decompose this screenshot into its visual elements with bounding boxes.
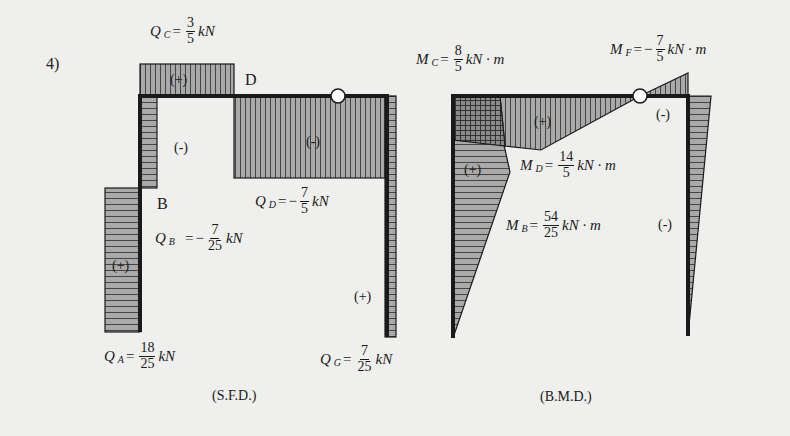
bmd-sign-near-hinge: (-) bbox=[656, 108, 670, 122]
equals: = bbox=[530, 218, 538, 233]
numerator: 14 bbox=[558, 150, 574, 166]
sfd-sign-right-column: (+) bbox=[354, 290, 371, 304]
symbol: Q bbox=[155, 231, 166, 246]
bmd-label-mc: MC = 85 kN · m bbox=[416, 44, 504, 74]
symbol: M bbox=[610, 42, 623, 57]
equals: = bbox=[185, 231, 193, 246]
fraction: 1825 bbox=[139, 341, 155, 371]
sfd-column-negative-region bbox=[141, 96, 157, 188]
bmd-corner-overlap-region bbox=[453, 96, 505, 146]
sfd-caption: (S.F.D.) bbox=[212, 389, 256, 403]
numerator: 7 bbox=[656, 34, 665, 50]
unit: kN · m bbox=[577, 158, 616, 173]
symbol: Q bbox=[255, 194, 266, 209]
subscript: G bbox=[334, 358, 341, 368]
subscript: D bbox=[536, 164, 543, 174]
unit: kN · m bbox=[668, 42, 707, 57]
denominator: 5 bbox=[186, 32, 195, 47]
subscript: C bbox=[432, 58, 439, 68]
equals: = bbox=[173, 24, 181, 39]
problem-number: 4) bbox=[46, 56, 59, 72]
equals: = bbox=[126, 349, 134, 364]
unit: kN bbox=[376, 352, 393, 367]
bmd-hinge bbox=[633, 89, 647, 103]
sfd-label-qb: QB = − 725 kN bbox=[155, 223, 243, 253]
symbol: M bbox=[506, 218, 519, 233]
sfd-hinge bbox=[331, 89, 345, 103]
symbol: Q bbox=[150, 24, 161, 39]
unit: kN bbox=[158, 349, 175, 364]
sfd-sign-column-upper: (-) bbox=[174, 141, 188, 155]
subscript: B bbox=[169, 237, 175, 247]
subscript: F bbox=[626, 48, 632, 58]
unit: kN bbox=[226, 231, 243, 246]
sfd-label-qc: QC = 35 kN bbox=[150, 16, 215, 46]
denominator: 25 bbox=[139, 357, 155, 372]
sign: − bbox=[644, 42, 652, 57]
sfd-sign-top-box: (+) bbox=[170, 73, 187, 87]
fraction: 145 bbox=[558, 150, 574, 180]
bmd-sign-right-column: (-) bbox=[658, 218, 672, 232]
sfd-point-label-b: B bbox=[157, 196, 168, 212]
numerator: 54 bbox=[543, 210, 559, 226]
denominator: 5 bbox=[300, 202, 309, 217]
numerator: 7 bbox=[360, 344, 369, 360]
numerator: 18 bbox=[139, 341, 155, 357]
unit: kN bbox=[312, 194, 329, 209]
equals: = bbox=[440, 52, 448, 67]
equals: = bbox=[545, 158, 553, 173]
equals: = bbox=[278, 194, 286, 209]
subscript: A bbox=[118, 355, 124, 365]
fraction: 5425 bbox=[543, 210, 559, 240]
bmd-beam-positive-region bbox=[500, 96, 640, 150]
bmd-label-md: MD = 145 kN · m bbox=[520, 150, 616, 180]
equals: = bbox=[343, 352, 351, 367]
bmd-left-column-positive-region bbox=[453, 140, 510, 338]
sfd-label-qg: QG = 725 kN bbox=[320, 344, 392, 374]
denominator: 25 bbox=[207, 239, 223, 254]
fraction: 75 bbox=[300, 186, 309, 216]
sfd-label-qd: QD = − 75 kN bbox=[255, 186, 329, 216]
numerator: 3 bbox=[186, 16, 195, 32]
numerator: 7 bbox=[210, 223, 219, 239]
bmd-caption: (B.M.D.) bbox=[540, 390, 592, 404]
equals: = bbox=[634, 42, 642, 57]
subscript: C bbox=[164, 30, 171, 40]
sfd-point-label-d: D bbox=[245, 72, 257, 88]
denominator: 25 bbox=[543, 226, 559, 241]
numerator: 8 bbox=[454, 44, 463, 60]
symbol: M bbox=[520, 158, 533, 173]
unit: kN · m bbox=[466, 52, 505, 67]
sfd-sign-beam: (-) bbox=[306, 135, 320, 149]
bmd-sign-left-column: (+) bbox=[464, 163, 481, 177]
bmd-sign-beam: (+) bbox=[534, 115, 551, 129]
symbol: Q bbox=[104, 349, 115, 364]
sfd-diagram bbox=[105, 64, 396, 337]
denominator: 5 bbox=[656, 50, 665, 65]
symbol: M bbox=[416, 52, 429, 67]
fraction: 35 bbox=[186, 16, 195, 46]
denominator: 25 bbox=[357, 360, 373, 375]
bmd-label-mf: MF = − 75 kN · m bbox=[610, 34, 706, 64]
bmd-hinge-negative-region bbox=[640, 73, 688, 96]
sfd-sign-column-lower: (+) bbox=[112, 259, 129, 273]
subscript: B bbox=[522, 224, 528, 234]
bmd-right-column-negative-region bbox=[688, 96, 711, 336]
sign: − bbox=[289, 194, 297, 209]
bmd-label-mb: MB = 5425 kN · m bbox=[506, 210, 601, 240]
unit: kN · m bbox=[562, 218, 601, 233]
unit: kN bbox=[198, 24, 215, 39]
fraction: 725 bbox=[357, 344, 373, 374]
denominator: 5 bbox=[454, 60, 463, 75]
subscript: D bbox=[269, 200, 276, 210]
fraction: 75 bbox=[656, 34, 665, 64]
numerator: 7 bbox=[300, 186, 309, 202]
fraction: 85 bbox=[454, 44, 463, 74]
symbol: Q bbox=[320, 352, 331, 367]
sfd-label-qa: QA = 1825 kN bbox=[104, 341, 175, 371]
denominator: 5 bbox=[562, 166, 571, 181]
fraction: 725 bbox=[207, 223, 223, 253]
sign: − bbox=[195, 231, 203, 246]
bmd-diagram bbox=[453, 73, 711, 338]
